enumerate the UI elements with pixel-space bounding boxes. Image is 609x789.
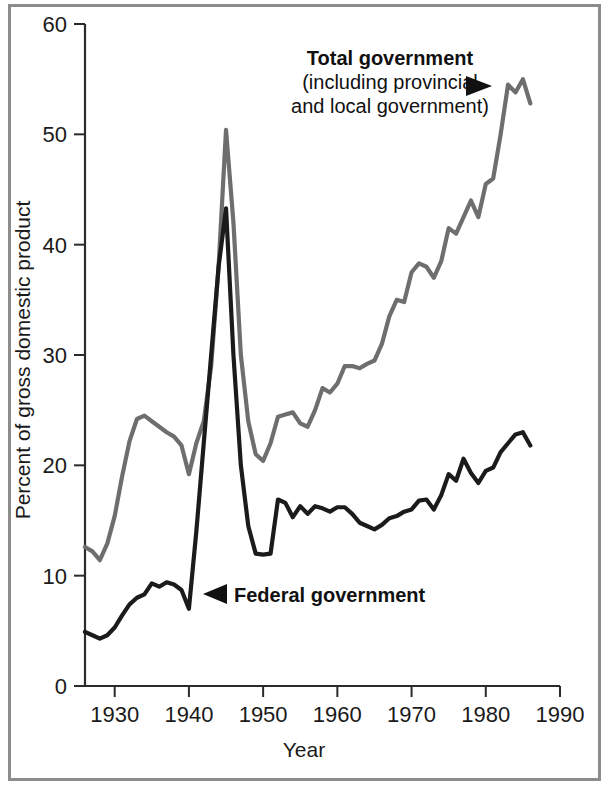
y-axis-title: Percent of gross domestic product	[11, 201, 34, 520]
x-axis-title: Year	[283, 738, 325, 761]
x-axis-tick-labels: 1930194019501960197019801990	[90, 702, 584, 727]
annotation-federal-label: Federal government	[234, 584, 426, 606]
annotation-total-line-1: Total government	[307, 47, 474, 69]
y-tick-label-30: 30	[43, 343, 67, 368]
annotation-total-line-2: (including provincial	[302, 71, 478, 93]
y-tick-label-40: 40	[43, 233, 67, 258]
line-chart-svg: 0102030405060 19301940195019601970198019…	[0, 0, 609, 789]
annotation-total-government: Total government (including provincial a…	[291, 47, 492, 117]
x-tick-label-1940: 1940	[164, 702, 213, 727]
chart-series-group	[85, 79, 530, 638]
series-line-total-government	[85, 79, 530, 560]
y-tick-label-50: 50	[43, 122, 67, 147]
y-tick-label-60: 60	[43, 12, 67, 37]
x-tick-label-1960: 1960	[313, 702, 362, 727]
arrow-left-icon	[203, 584, 227, 604]
y-axis-ticks	[74, 24, 85, 686]
y-axis-tick-labels: 0102030405060	[43, 12, 67, 699]
x-tick-label-1990: 1990	[536, 702, 585, 727]
arrow-right-icon	[466, 76, 492, 96]
x-axis-ticks	[115, 686, 560, 697]
chart-figure: 0102030405060 19301940195019601970198019…	[0, 0, 609, 789]
annotation-federal-government: Federal government	[203, 584, 426, 606]
x-tick-label-1970: 1970	[387, 702, 436, 727]
x-tick-label-1980: 1980	[461, 702, 510, 727]
y-tick-label-0: 0	[55, 674, 67, 699]
x-tick-label-1930: 1930	[90, 702, 139, 727]
y-tick-label-20: 20	[43, 453, 67, 478]
x-tick-label-1950: 1950	[239, 702, 288, 727]
y-tick-label-10: 10	[43, 564, 67, 589]
annotation-total-line-3: and local government)	[291, 95, 489, 117]
